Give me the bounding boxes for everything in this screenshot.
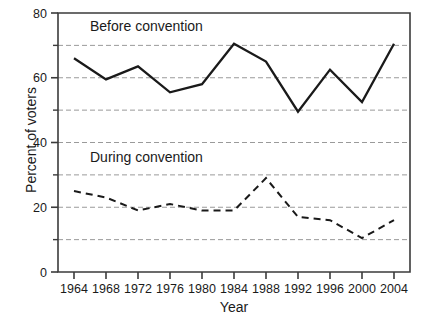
x-axis-tick-label: 2004 bbox=[380, 282, 408, 296]
x-axis-tick-label: 1984 bbox=[220, 282, 248, 296]
y-axis-title: Percent of voters bbox=[23, 87, 39, 193]
chart-container: 020406080 196419681972197619801984198819… bbox=[0, 0, 424, 321]
y-axis-tick-label: 80 bbox=[33, 7, 47, 21]
x-axis-ticks-group: 1964196819721976198019841988199219962000… bbox=[60, 272, 408, 296]
x-axis-tick-label: 1972 bbox=[124, 282, 152, 296]
x-axis-title-wrap: Year bbox=[58, 298, 410, 316]
series-label-during-convention: During convention bbox=[90, 149, 203, 165]
x-axis-tick-label: 1992 bbox=[284, 282, 312, 296]
x-axis-tick-label: 1988 bbox=[252, 282, 280, 296]
series-line-during-convention bbox=[74, 178, 394, 238]
data-series-group bbox=[74, 44, 394, 238]
x-axis-title: Year bbox=[220, 299, 248, 315]
x-axis-tick-label: 1968 bbox=[92, 282, 120, 296]
x-axis-tick-label: 1980 bbox=[188, 282, 216, 296]
x-axis-tick-label: 1996 bbox=[316, 282, 344, 296]
y-axis-title-wrap: Percent of voters bbox=[21, 40, 41, 240]
line-chart-plot: 020406080 196419681972197619801984198819… bbox=[0, 0, 424, 321]
x-axis-tick-label: 2000 bbox=[348, 282, 376, 296]
gridlines-group bbox=[58, 45, 410, 239]
y-axis-tick-label: 0 bbox=[40, 266, 47, 280]
series-label-before-convention: Before convention bbox=[90, 18, 203, 34]
x-axis-tick-label: 1964 bbox=[60, 282, 88, 296]
x-axis-tick-label: 1976 bbox=[156, 282, 184, 296]
